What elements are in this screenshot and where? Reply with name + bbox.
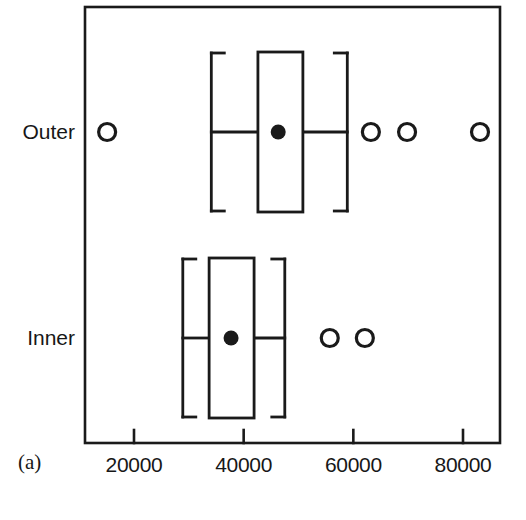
x-axis-tick-label: 40000 bbox=[215, 453, 272, 477]
boxplot-outer bbox=[99, 52, 489, 212]
x-axis-ticks bbox=[134, 430, 463, 443]
x-axis-tick-label: 20000 bbox=[106, 453, 163, 477]
median-marker bbox=[224, 331, 239, 346]
x-axis-tick-label: 60000 bbox=[325, 453, 382, 477]
x-axis-tick-label: 80000 bbox=[435, 453, 492, 477]
panel-caption: (a) bbox=[18, 450, 41, 475]
outlier-marker bbox=[321, 330, 338, 347]
outlier-marker bbox=[471, 124, 488, 141]
category-label-inner: Inner bbox=[27, 326, 75, 350]
category-label-outer: Outer bbox=[22, 120, 75, 144]
median-marker bbox=[271, 125, 286, 140]
boxplot-series bbox=[99, 52, 489, 418]
boxplot-figure: 20000400006000080000 OuterInner (a) bbox=[0, 0, 526, 520]
boxplot-inner bbox=[183, 258, 374, 418]
outlier-marker bbox=[356, 330, 373, 347]
outlier-marker bbox=[362, 124, 379, 141]
outlier-marker bbox=[399, 124, 416, 141]
boxplot-canvas bbox=[0, 0, 526, 520]
outlier-marker bbox=[99, 124, 116, 141]
